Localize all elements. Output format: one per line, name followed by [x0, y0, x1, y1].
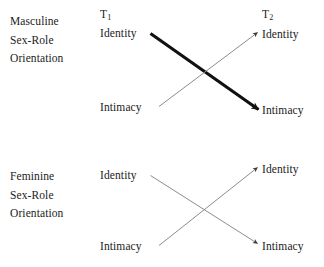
feminine-group-label-line-3: Orientation — [10, 204, 63, 223]
masculine-t1-identity-node: Identity — [100, 26, 137, 41]
feminine-t2-intimacy-node: Intimacy — [262, 239, 304, 254]
feminine-group-label-line-1: Feminine — [10, 167, 63, 186]
time-2-prefix: T — [262, 8, 269, 20]
masculine-group-label-line-2: Sex-Role — [10, 31, 63, 50]
time-1-subscript: 1 — [107, 13, 111, 22]
feminine-group-label: Feminine Sex-Role Orientation — [10, 167, 63, 223]
feminine-group-label-line-2: Sex-Role — [10, 186, 63, 205]
masculine-t2-identity-node: Identity — [262, 27, 299, 42]
time-2-subscript: 2 — [269, 13, 273, 22]
time-1-label: T1 — [100, 8, 111, 20]
time-2-label: T2 — [262, 8, 273, 20]
masculine-t1-intimacy-node: Intimacy — [100, 100, 142, 115]
masculine-intimacy-to-identity-path — [159, 33, 258, 107]
masculine-t2-intimacy-node: Intimacy — [262, 103, 304, 118]
masculine-group-label: Masculine Sex-Role Orientation — [10, 12, 63, 68]
time-1-prefix: T — [100, 8, 107, 20]
masculine-identity-to-intimacy-path — [151, 34, 259, 110]
masculine-group-label-line-3: Orientation — [10, 49, 63, 68]
path-diagram-figure: Masculine Sex-Role Orientation T1 T2 Ide… — [0, 0, 324, 267]
masculine-group-label-line-1: Masculine — [10, 12, 63, 31]
feminine-t2-identity-node: Identity — [262, 162, 299, 177]
feminine-t1-intimacy-node: Intimacy — [100, 239, 142, 254]
feminine-t1-identity-node: Identity — [100, 168, 137, 183]
